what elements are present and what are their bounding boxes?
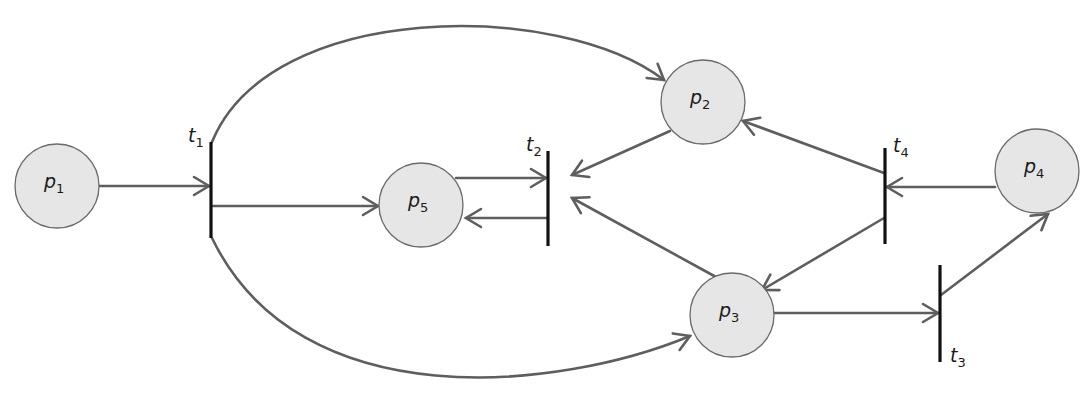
arc-p5-to-t2 bbox=[456, 169, 546, 187]
place-p1: p1 bbox=[15, 144, 99, 228]
place-label-p1-base: p bbox=[43, 170, 56, 192]
arc-line bbox=[212, 26, 664, 142]
arc-p1-to-t1 bbox=[99, 177, 209, 195]
place-label-p5-base: p bbox=[407, 189, 420, 211]
transition-label-t3-subscript: 3 bbox=[957, 355, 965, 370]
arc-t4-to-p2 bbox=[743, 118, 884, 173]
arc-line bbox=[762, 218, 884, 290]
arc-line bbox=[743, 121, 884, 173]
arc-line bbox=[572, 131, 670, 175]
arc-line bbox=[941, 214, 1048, 295]
place-p2: p2 bbox=[661, 60, 745, 144]
arc-p2-to-t2 bbox=[572, 131, 670, 177]
arcs-layer bbox=[99, 26, 1048, 377]
place-p5: p5 bbox=[379, 163, 463, 247]
arc-p3-to-t2 bbox=[572, 197, 716, 277]
place-p4: p4 bbox=[995, 129, 1079, 213]
arc-t1-to-p3 bbox=[212, 238, 690, 377]
place-label-p4-subscript: 4 bbox=[1036, 166, 1044, 181]
arc-t1-to-p2 bbox=[212, 26, 664, 142]
petri-net-canvas: p1p2p3p4p5 t1t2t3t4 bbox=[0, 0, 1090, 397]
place-label-p2-subscript: 2 bbox=[702, 97, 710, 112]
transition-label-t1: t1 bbox=[188, 124, 204, 150]
transition-label-t3: t3 bbox=[950, 344, 966, 370]
place-label-p3-base: p bbox=[718, 299, 731, 321]
transition-label-t2: t2 bbox=[526, 133, 542, 159]
arc-t1-to-p5 bbox=[213, 197, 378, 215]
transition-label-t4-subscript: 4 bbox=[900, 145, 908, 160]
arc-line bbox=[212, 238, 690, 377]
arc-p4-to-t4 bbox=[887, 178, 995, 196]
arc-line bbox=[572, 198, 716, 277]
arc-t4-to-p3 bbox=[762, 218, 884, 290]
place-label-p3-subscript: 3 bbox=[731, 310, 739, 325]
arc-t3-to-p4 bbox=[941, 214, 1048, 295]
place-label-p4-base: p bbox=[1023, 155, 1036, 177]
place-p3: p3 bbox=[690, 273, 774, 357]
place-label-p5-subscript: 5 bbox=[420, 200, 428, 215]
petri-net-diagram: p1p2p3p4p5 t1t2t3t4 bbox=[0, 0, 1090, 397]
transition-label-t2-subscript: 2 bbox=[533, 144, 541, 159]
transition-label-t1-subscript: 1 bbox=[195, 135, 203, 150]
arc-t2-to-p5 bbox=[466, 209, 548, 227]
arc-p3-to-t3 bbox=[774, 304, 938, 322]
place-label-p1-subscript: 1 bbox=[56, 181, 64, 196]
place-label-p2-base: p bbox=[689, 86, 702, 108]
transition-label-t4: t4 bbox=[893, 134, 909, 160]
